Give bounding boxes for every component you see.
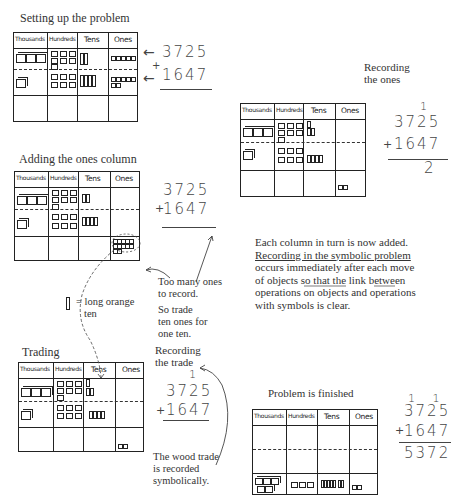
connector-arrows — [0, 0, 459, 497]
ones-highlight-ellipse — [112, 234, 140, 252]
